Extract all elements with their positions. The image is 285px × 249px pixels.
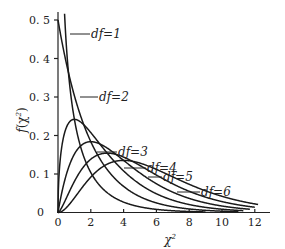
svg-text:6: 6 xyxy=(153,216,160,229)
label-df2: df=2 xyxy=(99,90,129,104)
svg-text:0. 5: 0. 5 xyxy=(29,14,50,27)
label-df3: df=3 xyxy=(118,145,148,159)
svg-text:12: 12 xyxy=(248,216,262,229)
svg-text:4: 4 xyxy=(120,216,127,229)
y-tick-labels: 0 0. 1 0. 2 0. 3 0. 4 0. 5 xyxy=(29,14,50,219)
svg-text:0. 4: 0. 4 xyxy=(29,53,50,66)
svg-text:10: 10 xyxy=(215,216,229,229)
label-df5: df=5 xyxy=(163,170,193,184)
svg-text:0: 0 xyxy=(55,216,62,229)
svg-text:0. 1: 0. 1 xyxy=(29,168,50,181)
x-tick-labels: 0 2 4 6 8 10 12 xyxy=(55,216,262,229)
curve-labels: df=1 df=2 df=3 df=4 df=5 df=6 xyxy=(91,27,231,199)
svg-text:0. 2: 0. 2 xyxy=(29,130,50,143)
chi-square-chart: 0 0. 1 0. 2 0. 3 0. 4 0. 5 0 2 4 6 8 10 … xyxy=(0,0,285,249)
label-df6: df=6 xyxy=(201,185,231,199)
x-axis-label: χ2 xyxy=(163,233,176,247)
y-axis-label: f(χ2) xyxy=(15,107,29,134)
svg-text:0. 3: 0. 3 xyxy=(29,91,50,104)
svg-text:2: 2 xyxy=(87,216,94,229)
leader-lines xyxy=(70,34,200,192)
svg-text:0: 0 xyxy=(37,206,44,219)
label-df1: df=1 xyxy=(91,27,121,41)
chi-square-curves xyxy=(58,14,258,213)
svg-text:8: 8 xyxy=(186,216,193,229)
